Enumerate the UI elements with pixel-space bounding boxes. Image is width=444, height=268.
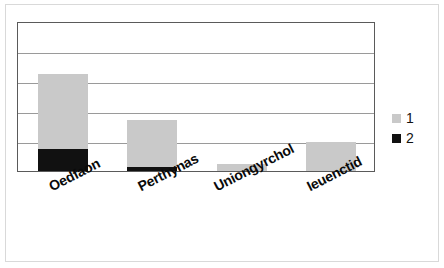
black-swatch-icon <box>392 134 401 143</box>
bar-group <box>306 142 356 171</box>
bar-segment-series-1 <box>306 142 356 171</box>
bar-segment-series-1 <box>217 164 267 171</box>
gray-swatch-icon <box>392 114 401 123</box>
bar-series-container <box>18 23 374 171</box>
plot-area <box>17 22 375 172</box>
bar-segment-series-1 <box>38 74 88 149</box>
bar-group <box>127 120 177 171</box>
bar-group <box>217 164 267 171</box>
legend-label-2: 2 <box>406 131 414 145</box>
bar-group <box>38 74 88 171</box>
legend-label-1: 1 <box>406 111 414 125</box>
legend-item-1: 1 <box>392 108 436 128</box>
chart-figure: OedfaonPerthynasUniongyrcholIeuenctid 1 … <box>0 0 444 268</box>
chart-legend: 1 2 <box>392 108 436 148</box>
bar-segment-series-2 <box>38 149 88 171</box>
bar-segment-series-1 <box>127 120 177 167</box>
legend-item-2: 2 <box>392 128 436 148</box>
bar-segment-series-2 <box>127 167 177 172</box>
